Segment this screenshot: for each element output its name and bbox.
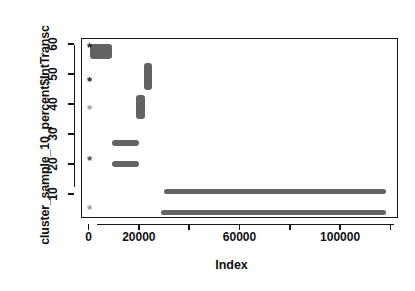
data-band-band-27: [112, 140, 138, 146]
x-tick-label-60000: 60000: [223, 230, 256, 244]
x-tick-80000: [289, 224, 290, 230]
plot-area: *****: [81, 38, 398, 218]
x-tick-label-0: 0: [85, 230, 92, 244]
data-band-band-40: [136, 95, 145, 119]
y-tick-label-text: 60: [46, 31, 60, 57]
y-tick-label-30: 30: [40, 127, 66, 141]
y-tick-50: [68, 73, 74, 74]
data-band-band-4-long: [161, 210, 386, 215]
r-index-plot: cluster_sample_10_percent$IntTransc 1020…: [0, 0, 415, 291]
marker-48-icon: *: [87, 75, 92, 88]
marker-5-icon: *: [87, 202, 92, 215]
y-tick-label-60: 60: [40, 37, 66, 51]
data-band-band-60-top: [90, 44, 112, 59]
y-tick-label-40: 40: [40, 97, 66, 111]
x-tick-label-20000: 20000: [122, 230, 155, 244]
x-axis-title: Index: [0, 258, 415, 272]
y-tick-label-text: 20: [46, 151, 60, 177]
x-tick-label-100000: 100000: [320, 230, 360, 244]
y-tick-label-text: 50: [46, 61, 60, 87]
y-tick-label-50: 50: [40, 67, 66, 81]
data-band-band-53: [144, 63, 153, 90]
y-axis-line: [74, 45, 75, 187]
y-tick-60: [68, 43, 74, 44]
y-tick-label-text: 10: [46, 181, 60, 207]
data-band-band-20: [112, 161, 138, 167]
marker-60-icon: *: [87, 40, 92, 53]
x-tick-40000: [188, 224, 189, 230]
y-tick-30: [68, 133, 74, 134]
y-tick-40: [68, 103, 74, 104]
data-band-band-11-long: [164, 189, 387, 194]
x-tick-120000: [390, 224, 391, 230]
y-tick-label-10: 10: [40, 187, 66, 201]
y-tick-label-text: 40: [46, 91, 60, 117]
x-axis-line: [97, 224, 394, 225]
y-tick-10: [68, 193, 74, 194]
marker-39-icon: *: [87, 102, 92, 115]
y-tick-label-20: 20: [40, 157, 66, 171]
y-tick-label-text: 30: [46, 121, 60, 147]
y-tick-20: [68, 163, 74, 164]
marker-22-icon: *: [87, 153, 92, 166]
x-axis-title-text: Index: [215, 258, 248, 272]
